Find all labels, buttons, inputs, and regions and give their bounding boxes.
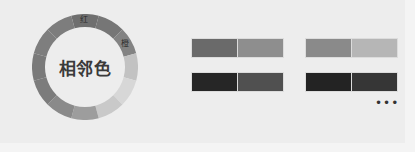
color-swatch[interactable] <box>192 73 237 91</box>
segment-label-red: 红 <box>80 16 88 24</box>
more-dots-icon[interactable]: ••• <box>375 97 399 109</box>
color-swatch[interactable] <box>352 73 397 91</box>
wheel-center-title: 相邻色 <box>32 14 138 120</box>
color-swatch[interactable] <box>238 39 283 57</box>
segment-label-orange: 橙 <box>121 40 129 48</box>
color-swatch[interactable] <box>192 39 237 57</box>
color-swatch[interactable] <box>306 73 351 91</box>
color-swatch[interactable] <box>306 39 351 57</box>
color-swatch[interactable] <box>238 73 283 91</box>
adjacent-colors-card: 相邻色 红 橙 ••• <box>0 0 405 143</box>
color-swatch[interactable] <box>352 39 397 57</box>
